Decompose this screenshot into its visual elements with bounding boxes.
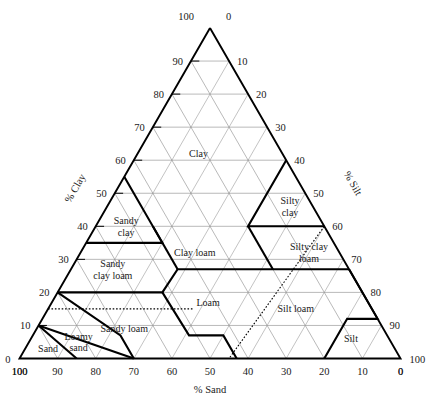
class-label-line: Clay — [189, 148, 208, 159]
axis-title-silt: % Silt — [342, 169, 365, 197]
class-label-line: clay loam — [93, 270, 132, 281]
corner-label-left-clay: 0 — [5, 354, 10, 365]
class-label-line: sand — [69, 342, 87, 353]
class-label-clay-loam: Clay loam — [174, 247, 216, 258]
class-label-line: Sandy loam — [101, 323, 149, 334]
tick-clay-30: 30 — [58, 254, 69, 265]
class-label-line: loam — [299, 253, 319, 264]
class-boundary-6 — [324, 269, 377, 358]
tick-sand-90: 90 — [52, 366, 63, 377]
corner-label-apex-clay: 100 — [178, 11, 194, 22]
tick-clay-50: 50 — [96, 188, 107, 199]
tick-silt-80: 80 — [370, 287, 381, 298]
class-label-line: Silty — [281, 195, 300, 206]
soil-texture-triangle-figure: 1009080706050403020100102030405060708090… — [0, 0, 439, 402]
axis-titles-layer: % Sand% Clay% Silt — [62, 169, 364, 395]
class-label-line: clay — [118, 227, 135, 238]
class-label-sandy-clay-loam: Sandyclay loam — [93, 258, 132, 281]
class-label-line: Sandy — [100, 258, 125, 269]
class-label-line: clay — [282, 207, 299, 218]
class-label-line: Loam — [196, 297, 220, 308]
grid-line-silt-90 — [362, 325, 381, 358]
class-label-line: Loamy — [64, 331, 92, 342]
corner-label-apex-silt: 0 — [226, 11, 231, 22]
grid-line-sand-30 — [153, 127, 286, 358]
tick-sand-30: 30 — [281, 366, 292, 377]
grid-line-silt-50 — [210, 193, 305, 358]
class-label-silty-clay-loam: Silty clayloam — [290, 241, 328, 263]
tick-silt-10: 10 — [237, 56, 248, 67]
tick-clay-70: 70 — [134, 122, 145, 133]
class-label-line: Sand — [38, 343, 58, 354]
class-label-line: Sandy — [114, 215, 139, 226]
tick-silt-40: 40 — [294, 155, 305, 166]
corner-label-right-silt: 100 — [410, 354, 426, 365]
ternary-diagram-svg: 1009080706050403020100102030405060708090… — [0, 0, 439, 402]
class-label-clay: Clay — [189, 148, 208, 159]
tick-clay-60: 60 — [115, 155, 126, 166]
tick-sand-70: 70 — [129, 366, 140, 377]
tick-sand-20: 20 — [319, 366, 330, 377]
tick-silt-30: 30 — [275, 122, 286, 133]
tick-silt-50: 50 — [313, 188, 324, 199]
class-label-silt: Silt — [344, 333, 358, 344]
class-label-silty-clay: Siltyclay — [281, 195, 300, 218]
corner-label-right-sand: 0 — [398, 366, 403, 377]
tick-silt-90: 90 — [389, 320, 400, 331]
tick-silt-60: 60 — [332, 221, 343, 232]
class-label-loam: Loam — [196, 297, 220, 308]
class-label-sand: Sand — [38, 343, 58, 354]
corner-label-left-sand: 100 — [12, 366, 28, 377]
class-label-silt-loam: Silt loam — [278, 303, 315, 314]
tick-silt-20: 20 — [256, 89, 267, 100]
class-boundary-2 — [248, 226, 273, 269]
tick-sand-80: 80 — [90, 366, 101, 377]
class-label-line: Silt loam — [278, 303, 315, 314]
class-label-line: Silt — [344, 333, 358, 344]
axis-title-sand: % Sand — [194, 384, 227, 395]
class-label-line: Silty clay — [290, 241, 328, 252]
tick-clay-20: 20 — [39, 287, 50, 298]
tick-sand-40: 40 — [243, 366, 254, 377]
class-label-sandy-loam: Sandy loam — [101, 323, 149, 334]
tick-sand-10: 10 — [357, 366, 368, 377]
tick-sand-60: 60 — [167, 366, 178, 377]
tick-clay-10: 10 — [20, 320, 31, 331]
tick-silt-70: 70 — [351, 254, 362, 265]
tick-clay-90: 90 — [172, 56, 183, 67]
tick-sand-50: 50 — [205, 366, 216, 377]
tick-clay-40: 40 — [77, 221, 88, 232]
axis-title-clay: % Clay — [62, 171, 88, 204]
class-label-line: Clay loam — [174, 247, 216, 258]
tick-clay-80: 80 — [153, 89, 164, 100]
